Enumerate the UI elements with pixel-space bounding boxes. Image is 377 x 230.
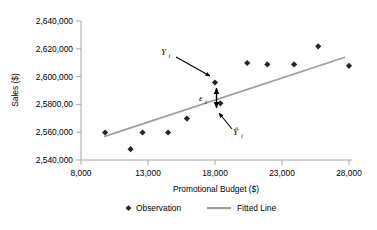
y-tick-label: 2,560,000	[36, 127, 74, 137]
chart-background	[0, 0, 377, 230]
annotation-subscript-epsilon: i	[205, 98, 207, 105]
y-tick-label: 2,640,000	[36, 16, 74, 26]
y-tick-label: 2,600,000	[36, 72, 74, 82]
y-tick-label: 2,620,000	[36, 44, 74, 54]
annotation-subscript-yi: i	[169, 52, 171, 59]
x-tick-label: 8,000	[71, 168, 92, 178]
y-tick-label: 2,5800,00	[36, 99, 74, 109]
scatter-chart: 2,640,000 2,620,000 2,600,000 2,5800,00 …	[0, 0, 377, 230]
x-tick-label: 28,000	[336, 168, 362, 178]
annotation-subscript-yhat: i	[241, 132, 243, 139]
legend-label-fitted-line: Fitted Line	[237, 203, 276, 213]
x-tick-label: 23,000	[269, 168, 295, 178]
x-axis-title: Promotional Budget ($)	[173, 184, 259, 194]
legend-label-observation: Observation	[136, 203, 181, 213]
y-tick-label: 2,540,000	[36, 155, 74, 165]
x-tick-label: 13,000	[135, 168, 161, 178]
x-tick-label: 18,000	[202, 168, 228, 178]
annotation-label-epsilon: ε	[199, 93, 203, 103]
chart-canvas: 2,640,000 2,620,000 2,600,000 2,5800,00 …	[0, 0, 377, 230]
y-axis-title: Sales ($)	[10, 73, 20, 107]
